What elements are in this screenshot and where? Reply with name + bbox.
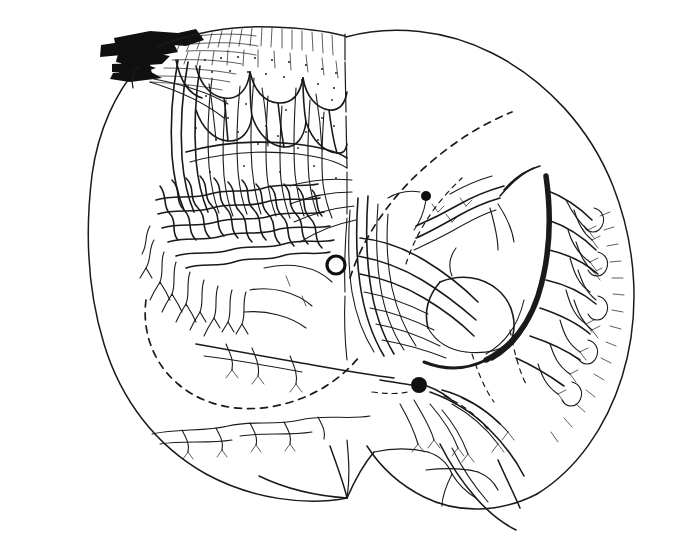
figure-root bbox=[0, 0, 676, 544]
filled-dot-marker-lower bbox=[411, 377, 427, 393]
neuroanatomy-illustration bbox=[0, 0, 676, 544]
